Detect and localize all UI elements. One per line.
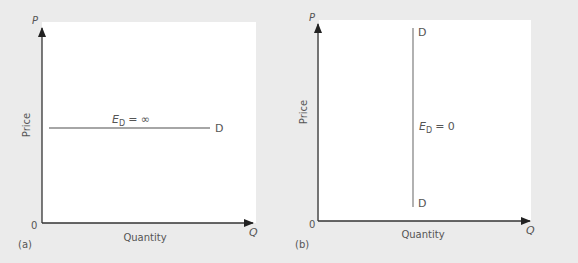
y-axis-symbol-a: P (32, 15, 39, 26)
origin-label-b: 0 (309, 219, 315, 230)
panel-label-b: (b) (295, 239, 309, 250)
x-axis-symbol-a: Q (249, 226, 258, 239)
origin-label-a: 0 (31, 220, 37, 231)
demand-label-b-bottom: D (418, 197, 426, 210)
y-axis-label-a: Price (21, 113, 32, 137)
y-axis-label-b: Price (298, 100, 309, 124)
elasticity-annotation-b: ED= 0 (419, 120, 455, 135)
panel-label-a: (a) (18, 239, 32, 250)
x-axis-symbol-b: Q (526, 224, 535, 237)
demand-label-a: D (215, 122, 223, 135)
chart-b: P Q 0 Price Quantity (b) D D ED= 0 (295, 12, 535, 250)
demand-label-b-top: D (418, 26, 426, 39)
elasticity-annotation-a: ED= ∞ (112, 113, 150, 128)
x-axis-label-a: Quantity (123, 232, 166, 243)
elasticity-diagrams: P Q 0 Price Quantity (a) D ED= ∞ P Q 0 P… (0, 0, 578, 263)
y-axis-symbol-b: P (309, 12, 316, 23)
x-axis-label-b: Quantity (401, 229, 444, 240)
chart-a: P Q 0 Price Quantity (a) D ED= ∞ (18, 15, 258, 250)
